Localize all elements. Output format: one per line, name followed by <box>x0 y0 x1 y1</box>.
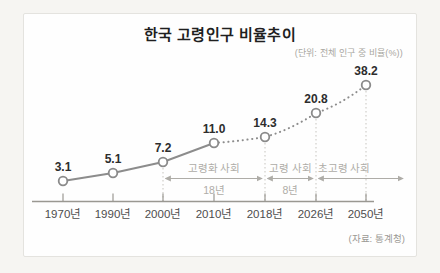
chart-title: 한국 고령인구 비율추이 <box>24 23 416 44</box>
chart-card: 한국 고령인구 비율추이 (단위: 전체 인구 중 비율(%)) (자료: 통계… <box>23 13 417 257</box>
page-background: 한국 고령인구 비율추이 (단위: 전체 인구 중 비율(%)) (자료: 통계… <box>0 0 440 273</box>
source-label: (자료: 통계청) <box>348 231 405 245</box>
unit-label: (단위: 전체 인구 중 비율(%)) <box>295 46 403 59</box>
